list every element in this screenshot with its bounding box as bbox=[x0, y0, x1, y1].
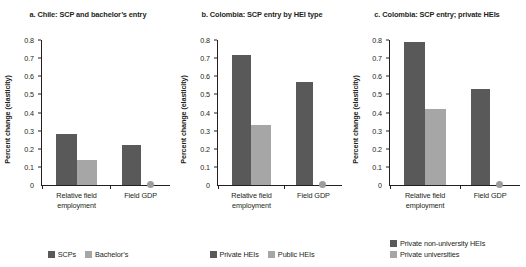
legend-label: Private HEIs bbox=[220, 250, 259, 259]
panel-b-plot-area bbox=[218, 40, 342, 185]
y-tick-label: 0.3 bbox=[200, 126, 210, 135]
x-axis-start-tick bbox=[42, 185, 43, 189]
legend-label: SCPs bbox=[58, 250, 76, 259]
legend-item-private-non-university-heis[interactable]: Private non-university HEIs bbox=[390, 239, 485, 248]
chart-panel-a: a. Chile: SCP and bachelor’s entry Perce… bbox=[0, 0, 176, 267]
y-tick-label: 0.7 bbox=[372, 54, 382, 63]
x-axis-group-separator-tick bbox=[460, 185, 461, 189]
figure-container: a. Chile: SCP and bachelor’s entry Perce… bbox=[0, 0, 526, 267]
y-tick-label: 0 bbox=[206, 181, 210, 190]
panel-a-legend: SCPs Bachelor’s bbox=[0, 250, 176, 259]
panel-b-x-tick-labels: Relative field employment Field GDP bbox=[218, 191, 342, 217]
y-tick-label: 0.8 bbox=[200, 36, 210, 45]
panel-c-x-tick-labels: Relative field employment Field GDP bbox=[390, 191, 520, 217]
y-tick-label: 0.7 bbox=[24, 54, 34, 63]
panel-c-y-axis-label: Percent change (elasticity) bbox=[348, 34, 362, 204]
y-tick-label: 0.1 bbox=[372, 162, 382, 171]
x-axis-group-separator-tick bbox=[110, 185, 111, 189]
legend-swatch-icon-dark bbox=[48, 251, 55, 258]
legend-swatch-icon-dark bbox=[390, 240, 397, 247]
bar-group-field-gdp bbox=[465, 40, 514, 185]
y-tick-label: 0.1 bbox=[24, 162, 34, 171]
y-tick-label: 0.2 bbox=[372, 144, 382, 153]
zero-value-dot-marker[interactable] bbox=[319, 181, 326, 188]
x-tick-label-relative-field-employment: Relative field employment bbox=[42, 191, 111, 211]
legend-item-public-heis[interactable]: Public HEIs bbox=[268, 250, 315, 259]
legend-item-private-universities[interactable]: Private universities bbox=[390, 250, 459, 259]
bar-series0-cat1[interactable] bbox=[122, 145, 140, 185]
y-tick-label: 0.4 bbox=[24, 108, 34, 117]
bar-series0-cat0[interactable] bbox=[404, 42, 425, 185]
y-tick-label: 0.4 bbox=[200, 108, 210, 117]
bar-group-relative-field-employment bbox=[50, 40, 104, 185]
legend-label: Private non-university HEIs bbox=[400, 239, 485, 248]
panel-a-plot-block: Percent change (elasticity) 0.8 0.7 0.6 … bbox=[0, 34, 176, 212]
y-tick-label: 0 bbox=[378, 181, 382, 190]
x-tick-label-relative-field-employment: Relative field employment bbox=[218, 191, 285, 211]
panel-c-plot-area bbox=[390, 40, 520, 185]
bar-series1-cat0[interactable] bbox=[77, 160, 97, 185]
y-tick-label: 0 bbox=[30, 181, 34, 190]
panel-c-y-ticks: 0.8 0.7 0.6 0.5 0.4 0.3 0.2 0.1 bbox=[362, 40, 386, 185]
panel-a-y-ticks: 0.8 0.7 0.6 0.5 0.4 0.3 0.2 0.1 bbox=[14, 40, 38, 185]
legend-item-private-heis[interactable]: Private HEIs bbox=[210, 250, 259, 259]
y-tick-label: 0.6 bbox=[200, 72, 210, 81]
bar-series0-cat0[interactable] bbox=[56, 134, 76, 185]
legend-swatch-icon-light bbox=[268, 251, 275, 258]
panel-c-plot-block: Percent change (elasticity) 0.8 0.7 0.6 … bbox=[348, 34, 526, 212]
panel-a-plot-area bbox=[42, 40, 170, 185]
legend-label: Bachelor’s bbox=[95, 250, 128, 259]
y-tick-label: 0.4 bbox=[372, 108, 382, 117]
panel-a-y-axis-label: Percent change (elasticity) bbox=[0, 34, 14, 204]
bar-series0-cat1[interactable] bbox=[471, 89, 490, 185]
x-tick-label-field-gdp: Field GDP bbox=[285, 191, 342, 201]
y-tick-label: 0.5 bbox=[200, 90, 210, 99]
zero-value-dot-marker[interactable] bbox=[496, 181, 503, 188]
y-tick-label: 0.3 bbox=[372, 126, 382, 135]
panel-c-axis-area: 0.8 0.7 0.6 0.5 0.4 0.3 0.2 0.1 bbox=[362, 40, 520, 200]
panel-c-title-line2: private HEIs bbox=[458, 10, 500, 19]
bar-group-relative-field-employment bbox=[225, 40, 277, 185]
bar-group-field-gdp bbox=[116, 40, 165, 185]
zero-value-dot-marker[interactable] bbox=[147, 181, 154, 188]
x-tick-label-relative-field-employment: Relative field employment bbox=[390, 191, 460, 211]
bar-group-relative-field-employment bbox=[398, 40, 453, 185]
legend-label: Public HEIs bbox=[278, 250, 315, 259]
x-axis-start-tick bbox=[218, 185, 219, 189]
x-axis-start-tick bbox=[390, 185, 391, 189]
y-tick-label: 0.6 bbox=[24, 72, 34, 81]
panel-b-y-axis-label: Percent change (elasticity) bbox=[176, 34, 190, 204]
panel-b-title: b. Colombia: SCP entry by HEI type bbox=[176, 10, 348, 32]
bar-series0-cat0[interactable] bbox=[232, 55, 252, 186]
panel-b-y-ticks: 0.8 0.7 0.6 0.5 0.4 0.3 0.2 0.1 bbox=[190, 40, 214, 185]
panel-b-title-line1: b. Colombia: SCP entry by bbox=[202, 10, 292, 19]
legend-item-bachelors[interactable]: Bachelor’s bbox=[85, 250, 128, 259]
legend-item-scps[interactable]: SCPs bbox=[48, 250, 76, 259]
legend-label: Private universities bbox=[400, 250, 459, 259]
y-tick-label: 0.2 bbox=[200, 144, 210, 153]
bar-series1-cat0[interactable] bbox=[425, 109, 446, 185]
x-tick-label-field-gdp: Field GDP bbox=[111, 191, 170, 201]
y-tick-label: 0.5 bbox=[372, 90, 382, 99]
panel-a-title-line2: entry bbox=[129, 10, 147, 19]
y-tick-label: 0.8 bbox=[372, 36, 382, 45]
panel-b-plot-block: Percent change (elasticity) 0.8 0.7 0.6 … bbox=[176, 34, 348, 212]
chart-panel-b: b. Colombia: SCP entry by HEI type Perce… bbox=[176, 0, 348, 267]
bar-group-field-gdp bbox=[290, 40, 337, 185]
bar-series0-cat1[interactable] bbox=[296, 82, 314, 185]
y-tick-label: 0.3 bbox=[24, 126, 34, 135]
y-tick-label: 0.7 bbox=[200, 54, 210, 63]
y-tick-label: 0.5 bbox=[24, 90, 34, 99]
bar-series1-cat0[interactable] bbox=[251, 125, 271, 185]
x-tick-label-field-gdp: Field GDP bbox=[460, 191, 520, 201]
panel-c-legend: Private non-university HEIs Private univ… bbox=[348, 239, 526, 259]
x-axis-group-separator-tick bbox=[284, 185, 285, 189]
y-tick-label: 0.6 bbox=[372, 72, 382, 81]
chart-panel-c: c. Colombia: SCP entry; private HEIs Per… bbox=[348, 0, 526, 267]
y-tick-label: 0.1 bbox=[200, 162, 210, 171]
legend-swatch-icon-dark bbox=[210, 251, 217, 258]
panel-a-x-tick-labels: Relative field employment Field GDP bbox=[42, 191, 170, 217]
legend-swatch-icon-light bbox=[85, 251, 92, 258]
panel-b-title-line2: HEI type bbox=[294, 10, 323, 19]
legend-swatch-icon-light bbox=[390, 251, 397, 258]
